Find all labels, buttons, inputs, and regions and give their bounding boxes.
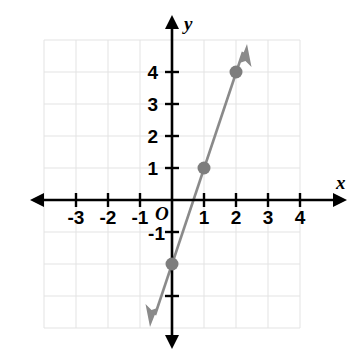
x-axis-arrow-right-icon [333,193,347,207]
y-tick-label-neg1: -1 [148,223,165,244]
x-axis-arrow-left-icon [30,193,44,207]
y-axis-arrow-down-icon [165,335,179,349]
y-tick-label-2: 2 [147,126,158,147]
axes-group [30,15,347,349]
y-tick-label-3: 3 [147,94,158,115]
x-tick-label-3: 3 [263,207,274,228]
data-point [230,66,243,79]
x-tick-label-2: 2 [231,207,242,228]
x-tick-label-4: 4 [295,207,306,228]
x-tick-label-1: 1 [199,207,210,228]
data-point [198,162,211,175]
x-axis-label: x [335,172,346,193]
tick-marks [76,72,300,296]
y-axis-label: y [182,13,193,34]
x-tick-label-neg3: -3 [68,207,85,228]
line-arrow-down-icon [146,304,158,327]
y-axis-arrow-up-icon [165,15,179,29]
y-tick-label-4: 4 [147,62,158,83]
y-tick-label-1: 1 [147,158,158,179]
line-segment [155,52,243,315]
data-point [166,258,179,271]
origin-label: O [155,203,169,224]
coordinate-plane-chart: -3 -2 -1 1 2 3 4 4 3 2 1 -1 O y x [0,0,360,353]
x-tick-label-neg1: -1 [132,207,149,228]
x-tick-label-neg2: -2 [100,207,117,228]
graph-container: -3 -2 -1 1 2 3 4 4 3 2 1 -1 O y x [0,0,360,353]
